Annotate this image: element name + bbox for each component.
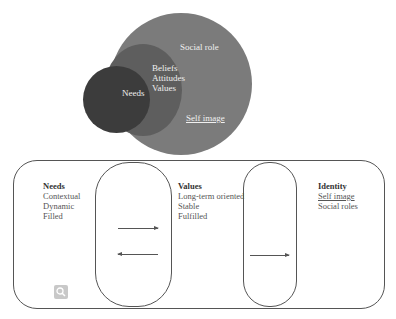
identity-item: Social roles — [318, 201, 358, 211]
arrow-right-icon — [250, 255, 289, 256]
self-image-label: Self image — [186, 113, 225, 123]
values-text: Values — [152, 83, 185, 93]
magnifier-icon[interactable] — [54, 285, 68, 299]
needs-circle — [83, 66, 150, 133]
identity-item: Self image — [318, 191, 358, 201]
arrow-left-icon — [118, 254, 158, 255]
identity-heading: Identity — [318, 181, 358, 191]
needs-heading: Needs — [43, 181, 80, 191]
identity-block: Identity Self image Social roles — [318, 181, 358, 211]
values-item: Stable — [178, 201, 244, 211]
social-role-label: Social role — [180, 42, 219, 52]
arrow-right-icon — [118, 228, 158, 229]
beliefs-text: Beliefs — [152, 63, 185, 73]
needs-block: Needs Contextual Dynamic Filled — [43, 181, 80, 221]
beliefs-attitudes-values-label: Beliefs Attitudes Values — [152, 63, 185, 93]
attitudes-text: Attitudes — [152, 73, 185, 83]
needs-label: Needs — [122, 88, 145, 98]
values-item: Fulfilled — [178, 211, 244, 221]
needs-item: Dynamic — [43, 201, 80, 211]
values-block: Values Long-term oriented Stable Fulfill… — [178, 181, 244, 221]
needs-item: Contextual — [43, 191, 80, 201]
values-identity-overlap — [243, 162, 297, 307]
values-item: Long-term oriented — [178, 191, 244, 201]
values-heading: Values — [178, 181, 244, 191]
needs-item: Filled — [43, 211, 80, 221]
needs-values-overlap — [95, 162, 172, 307]
